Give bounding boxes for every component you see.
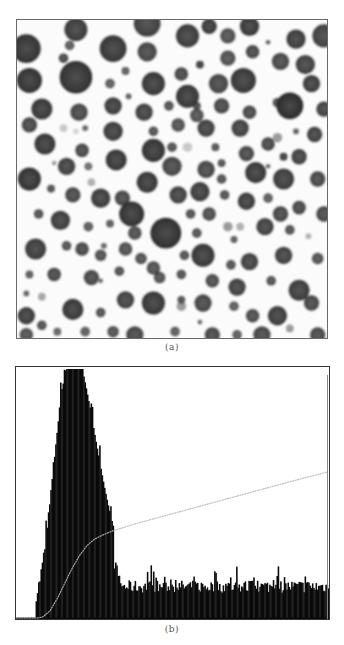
particle [245, 162, 266, 183]
particle [115, 266, 125, 276]
particle [64, 20, 87, 41]
histogram-chart [15, 366, 330, 620]
particle [65, 187, 80, 202]
particle [60, 61, 93, 94]
particle [75, 242, 89, 256]
particle [231, 236, 238, 243]
particle [293, 128, 299, 134]
particle [276, 92, 303, 119]
particle [17, 68, 42, 93]
particle [292, 201, 306, 215]
particle [135, 104, 152, 121]
particle [226, 260, 236, 270]
particle [197, 119, 214, 136]
particle [191, 244, 214, 267]
particle [84, 222, 94, 232]
particle [20, 328, 34, 338]
particle [25, 238, 46, 259]
particle [316, 101, 327, 116]
particle [193, 102, 201, 110]
particle [134, 20, 161, 37]
particle [232, 119, 249, 136]
particle [261, 137, 275, 151]
particle [310, 171, 325, 186]
particle [65, 41, 75, 51]
particle [18, 167, 41, 190]
particle [91, 188, 110, 207]
particle [88, 178, 96, 186]
particle [176, 24, 199, 47]
particle [154, 272, 166, 284]
particle [70, 104, 87, 121]
particle [52, 161, 57, 166]
particle [75, 144, 89, 158]
particle [60, 124, 68, 132]
particle [137, 172, 158, 193]
particle [256, 218, 273, 235]
particle [266, 164, 271, 169]
particle [286, 325, 294, 333]
particle [80, 327, 90, 337]
particle [217, 174, 227, 184]
particle [306, 233, 312, 239]
particle [240, 20, 259, 36]
particle [202, 207, 216, 221]
particle [37, 321, 47, 331]
particle [106, 220, 114, 228]
particle [303, 75, 320, 92]
plot-right-edge [327, 375, 328, 619]
particle [266, 276, 276, 286]
particle [104, 97, 121, 114]
particle [228, 278, 245, 295]
histogram-plot [16, 367, 329, 619]
particle [47, 268, 61, 282]
particle [291, 149, 306, 164]
particle [150, 218, 181, 249]
particle [246, 45, 260, 59]
particle [126, 326, 143, 338]
particle [312, 253, 324, 265]
particle [119, 242, 133, 256]
particle [183, 142, 193, 152]
particle [59, 53, 69, 63]
particle [231, 68, 256, 93]
particle [312, 24, 327, 47]
particle [175, 67, 189, 81]
particle [307, 127, 322, 142]
particle [177, 296, 185, 304]
particle [34, 209, 44, 219]
caption-b: (b) [0, 624, 344, 634]
particle [275, 247, 292, 264]
particle [38, 293, 46, 301]
particle [304, 295, 319, 310]
particle [84, 270, 99, 285]
particle [223, 222, 233, 232]
caption-a: (a) [0, 342, 344, 352]
particle [232, 330, 242, 338]
particle [122, 67, 130, 75]
particle [105, 79, 115, 89]
particle [316, 206, 327, 221]
micrograph-image [17, 20, 327, 338]
particle [220, 51, 235, 66]
particle [192, 228, 202, 238]
particle [220, 190, 230, 200]
particle [100, 35, 127, 62]
particle [107, 326, 119, 338]
particle [239, 146, 254, 161]
particle [194, 294, 211, 311]
particle [197, 161, 214, 178]
particle [84, 162, 92, 170]
particle [243, 105, 257, 119]
particle [180, 251, 190, 261]
particle [149, 127, 159, 137]
particle [126, 93, 132, 99]
particle [58, 158, 75, 175]
particle [62, 299, 83, 320]
particle [246, 309, 260, 323]
particle [273, 206, 288, 221]
particle [236, 223, 244, 231]
particle [286, 29, 305, 48]
particle [117, 291, 134, 308]
particle [142, 72, 165, 95]
